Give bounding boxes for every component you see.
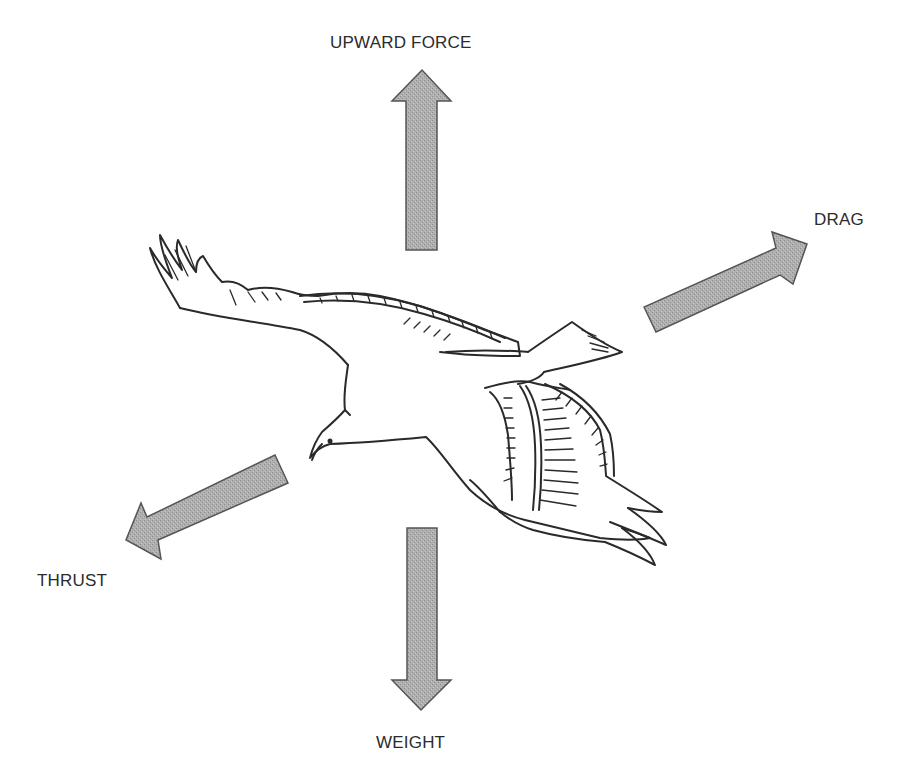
upward-force-arrow-icon [392, 70, 451, 250]
drag-arrow-icon [644, 232, 807, 332]
bird-illustration [150, 235, 666, 565]
weight-label: WEIGHT [376, 733, 445, 753]
weight-arrow-icon [392, 528, 451, 710]
drag-label: DRAG [814, 210, 864, 230]
upward-force-label: UPWARD FORCE [330, 33, 472, 53]
diagram-illustration [0, 0, 911, 775]
forces-on-bird-diagram: UPWARD FORCE DRAG THRUST WEIGHT [0, 0, 911, 775]
thrust-arrow-icon [126, 455, 288, 559]
thrust-label: THRUST [37, 571, 107, 591]
